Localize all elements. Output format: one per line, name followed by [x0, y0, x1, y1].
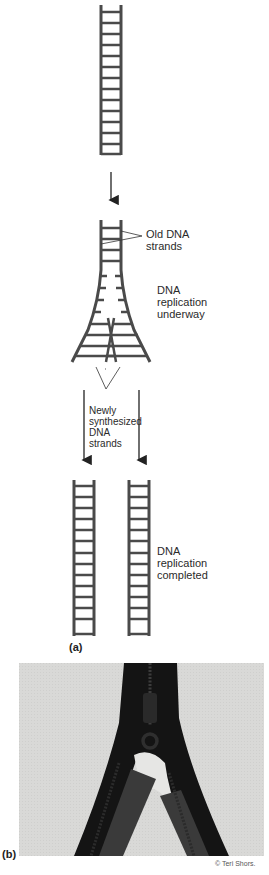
label-line: replication	[157, 296, 207, 308]
zipper-photo	[19, 663, 264, 856]
panel-a-label: (a)	[69, 641, 82, 653]
label-line: strands	[89, 438, 142, 449]
label-line: DNA	[157, 545, 208, 557]
label-line: synthesized	[89, 416, 142, 427]
panel-a-diagram	[0, 0, 269, 660]
label-line: replication	[157, 557, 208, 569]
label-line: underway	[157, 308, 207, 320]
label-line: Old DNA	[146, 228, 189, 240]
label-replication-underway: DNA replication underway	[157, 284, 207, 320]
label-line: completed	[157, 569, 208, 581]
label-old-dna-strands: Old DNA strands	[146, 228, 189, 252]
label-line: DNA	[89, 427, 142, 438]
replication-fork	[72, 220, 150, 362]
label-line: strands	[146, 240, 189, 252]
panel-b-label: (b)	[2, 848, 16, 860]
label-replication-completed: DNA replication completed	[157, 545, 208, 581]
label-line: DNA	[157, 284, 207, 296]
label-line: Newly	[89, 405, 142, 416]
label-newly-synthesized: Newly synthesized DNA strands	[89, 405, 142, 449]
photo-credit: © Teri Shors.	[215, 860, 255, 867]
